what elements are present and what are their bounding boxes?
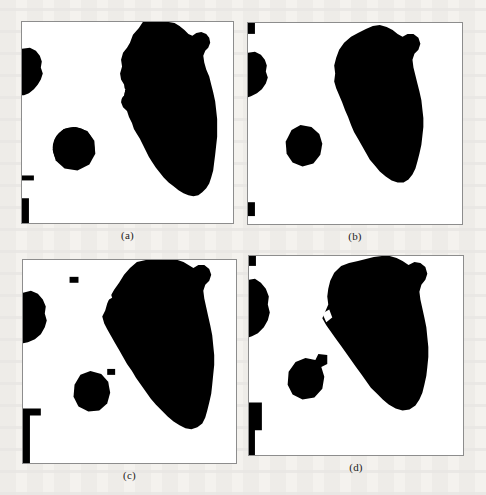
binary-mask-b [248, 23, 462, 224]
caption-b: (b) [247, 230, 463, 242]
corner-fragment-d-top [249, 256, 256, 266]
caption-d: (d) [248, 461, 464, 473]
left-border-fragment-a-1 [22, 175, 34, 180]
panel-b-image [247, 22, 463, 225]
figure-segmentation-grid: (a) (b) (c) [0, 0, 486, 495]
corner-fragment-b-bottom [248, 202, 255, 216]
caption-c: (c) [22, 469, 237, 481]
speckle-top-c [70, 277, 79, 283]
binary-mask-d [249, 256, 463, 455]
binary-mask-a [22, 22, 233, 223]
binary-mask-c [23, 260, 236, 463]
corner-fragment-b-top [248, 23, 255, 34]
panel-c-image [22, 259, 237, 464]
panel-d-image [248, 255, 464, 456]
panel-a-image [21, 21, 234, 224]
speckle-centre-c [107, 369, 115, 375]
caption-a: (a) [21, 229, 234, 241]
left-border-fragment-a-2 [22, 198, 29, 223]
